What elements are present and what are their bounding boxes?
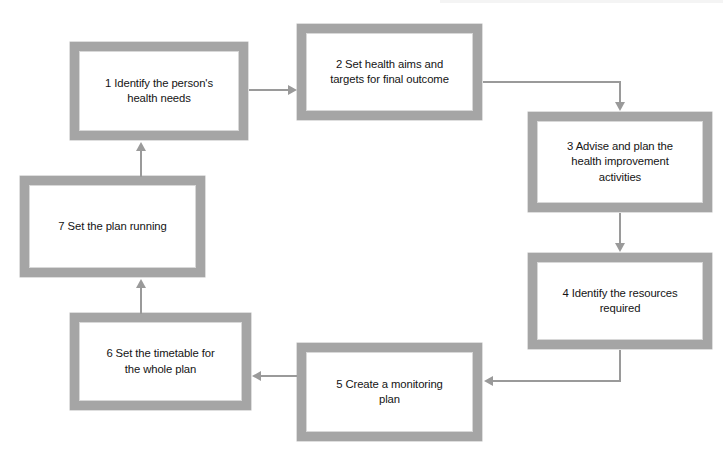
node-label-step-6: 6 Set the timetable for the whole plan <box>100 346 220 377</box>
flowchart-node-step-5[interactable]: 5 Create a monitoring plan <box>297 343 482 441</box>
node-label-step-2: 2 Set health aims and targets for final … <box>324 57 455 88</box>
flowchart-canvas: 1 Identify the person's health needs 2 S… <box>0 0 723 455</box>
connector-step-7-to-step-1-arrowhead <box>136 142 146 151</box>
flowchart-node-step-1[interactable]: 1 Identify the person's health needs <box>70 42 248 140</box>
flowchart-node-step-2[interactable]: 2 Set health aims and targets for final … <box>297 24 482 120</box>
node-body-step-2: 2 Set health aims and targets for final … <box>306 33 473 111</box>
connector-step-1-to-step-2-line <box>249 89 289 91</box>
node-body-step-3: 3 Advise and plan the health improvement… <box>537 121 703 203</box>
connector-step-2-to-step-3-arrowhead <box>615 102 625 111</box>
connector-step-2-to-step-3-segment-h <box>483 81 621 83</box>
node-label-step-1: 1 Identify the person's health needs <box>99 76 219 107</box>
connector-step-4-to-step-5-segment-h <box>492 380 621 382</box>
node-label-step-3: 3 Advise and plan the health improvement… <box>561 139 679 186</box>
connector-step-4-to-step-5-arrowhead <box>484 376 493 386</box>
node-label-step-5: 5 Create a monitoring plan <box>330 377 449 408</box>
node-body-step-4: 4 Identify the resources required <box>537 262 703 340</box>
connector-step-4-to-step-5-segment-v <box>619 350 621 381</box>
node-body-step-7: 7 Set the plan running <box>29 185 196 268</box>
node-body-step-6: 6 Set the timetable for the whole plan <box>79 322 242 401</box>
flowchart-node-step-7[interactable]: 7 Set the plan running <box>20 176 205 277</box>
node-body-step-5: 5 Create a monitoring plan <box>306 352 473 432</box>
connector-step-3-to-step-4-line <box>619 213 621 244</box>
flowchart-node-step-6[interactable]: 6 Set the timetable for the whole plan <box>70 313 251 410</box>
node-body-step-1: 1 Identify the person's health needs <box>79 51 239 131</box>
connector-step-3-to-step-4-arrowhead <box>615 243 625 252</box>
scan-artifact <box>440 0 723 3</box>
flowchart-node-step-3[interactable]: 3 Advise and plan the health improvement… <box>528 112 712 212</box>
connector-step-7-to-step-1-line <box>140 149 142 177</box>
node-label-step-7: 7 Set the plan running <box>52 219 172 235</box>
connector-step-5-to-step-6-arrowhead <box>252 371 261 381</box>
flowchart-node-step-4[interactable]: 4 Identify the resources required <box>528 253 712 349</box>
connector-step-2-to-step-3-segment-v <box>619 81 621 104</box>
node-label-step-4: 4 Identify the resources required <box>556 286 683 317</box>
connector-step-6-to-step-7-arrowhead <box>136 279 146 288</box>
connector-step-5-to-step-6-line <box>261 375 297 377</box>
connector-step-6-to-step-7-line <box>140 286 142 314</box>
connector-step-1-to-step-2-arrowhead <box>288 85 297 95</box>
